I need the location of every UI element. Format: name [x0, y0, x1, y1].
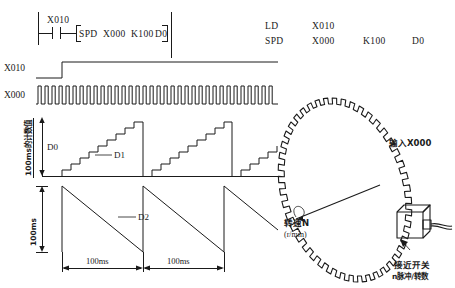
d0-d1-plot: 100ms的计数值 D0 D1 [23, 117, 278, 178]
il-row0-operand0: X010 [312, 21, 335, 31]
instruction-list: LD X010 SPD X000 K100 D0 [265, 21, 424, 46]
d2-vertical-caption: 100ms [29, 218, 38, 246]
signal-x000-trace [36, 86, 278, 104]
d0-y-axis-arrowhead [39, 117, 44, 123]
signal-x000-label: X000 [4, 90, 25, 100]
d2-amplitude-arrow-top [39, 186, 44, 192]
il-row1-operand2: D0 [412, 36, 424, 46]
instruction-list-row: SPD X000 K100 D0 [265, 36, 424, 46]
input-x000-label: 输入X000 [389, 138, 431, 148]
proximity-switch-label-line2: n脉冲/转数 [392, 271, 429, 281]
d2-period-arrowhead-1b [136, 265, 143, 270]
d2-period-label-1: 100ms [86, 256, 109, 266]
d0-vertical-caption: 100ms的计数值 [23, 119, 33, 176]
figure-root: X010 SPD X000 K100 D0 LD X010 SPD X000 K… [0, 0, 455, 288]
signal-x010: X010 [4, 62, 278, 78]
d2-plot: 100ms D2 100ms 100ms [29, 186, 278, 272]
d1-label: D1 [114, 150, 125, 160]
il-row1-mnemonic: SPD [265, 36, 284, 46]
il-row1-operand1: K100 [363, 36, 386, 46]
rotation-speed-unit: (r/min) [284, 230, 307, 239]
gear-shaft-axis [296, 185, 380, 219]
signal-x000: X000 [4, 86, 278, 104]
d2-amplitude-arrow-bottom [39, 246, 44, 252]
d2-period-arrowhead-1a [62, 265, 69, 270]
rotation-speed-label: 转速N [284, 218, 309, 228]
d1-staircase-period-2 [152, 122, 232, 176]
d2-period-label-2: 100ms [167, 256, 190, 266]
d1-staircase-period-3 [241, 146, 277, 176]
il-row0-mnemonic: LD [265, 21, 278, 31]
instruction-token-k100: K100 [131, 29, 154, 39]
gear-toothed-wheel [278, 98, 412, 282]
sensor-body-top [397, 205, 430, 212]
signal-x010-label: X010 [4, 63, 25, 73]
d2-period-arrowhead-2a [143, 265, 150, 270]
proximity-sensor [397, 205, 452, 238]
signal-x010-trace [36, 62, 278, 78]
instruction-token-x000: X000 [103, 29, 126, 39]
gear-illustration: 转速N (r/min) 接近开关 n脉冲/转数 输入X000 [278, 98, 452, 282]
d2-label: D2 [138, 212, 149, 222]
d0-label: D0 [47, 142, 58, 152]
il-row1-operand0: X000 [312, 36, 335, 46]
ladder-contact-label: X010 [47, 15, 69, 25]
d2-sawtooth-trace [62, 186, 278, 252]
sensor-body-side [423, 205, 430, 238]
proximity-switch-label-line1: 接近开关 [394, 260, 430, 270]
instruction-token-spd: SPD [79, 29, 98, 39]
instruction-list-row: LD X010 [265, 21, 335, 31]
d0-y-axis-baseline-marker [39, 170, 44, 176]
ladder-diagram: X010 SPD X000 K100 D0 [38, 12, 171, 58]
technical-diagram-canvas: X010 SPD X000 K100 D0 LD X010 SPD X000 K… [0, 0, 455, 288]
instruction-token-d0: D0 [155, 29, 167, 39]
d1-staircase-period-1 [62, 122, 143, 176]
d2-period-arrowhead-2b [217, 265, 224, 270]
